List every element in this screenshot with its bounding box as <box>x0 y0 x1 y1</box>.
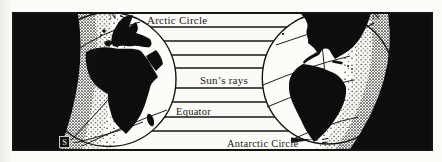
label-equator: Equator <box>176 107 211 118</box>
label-arctic-circle: Arctic Circle <box>147 15 207 26</box>
label-south-pole-left: S <box>59 136 70 148</box>
scanned-page: Arctic Circle Sun’s rays Equator Antarct… <box>0 0 442 162</box>
label-north-pole-left: N <box>109 11 117 22</box>
shadow-left <box>14 14 127 149</box>
label-south-pole-right: S <box>313 133 319 143</box>
label-antarctic-circle: Antarctic Circle <box>227 139 298 150</box>
label-north-pole-right: N <box>372 11 380 22</box>
label-suns-rays: Sun’s rays <box>200 75 248 86</box>
